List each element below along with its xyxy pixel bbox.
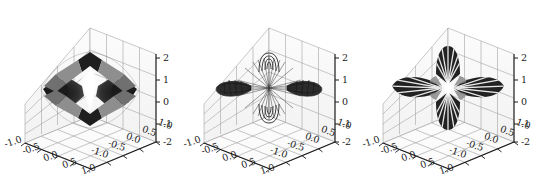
- ztick-label: 0: [342, 97, 348, 107]
- xtick-label: 1.0: [438, 162, 455, 174]
- axes-3d-2: -1.0 -0.5 0.0 0.5 1.0 1.0 0.5 0.0 -0.5 -…: [179, 0, 359, 174]
- figure-three-3d-plots: -1.0 -0.5 0.0 0.5 1.0 1.0 0.5 0.0 -0.5 -…: [0, 0, 538, 174]
- ztick-label: -1: [521, 119, 530, 129]
- ztick-label: -1: [163, 119, 172, 129]
- ztick-label: 2: [521, 53, 527, 63]
- ztick-label: 2: [163, 53, 169, 63]
- panel-filled-contour-plot: -1.0 -0.5 0.0 0.5 1.0 1.0 0.5 0.0 -0.5 -…: [358, 0, 538, 174]
- panel-surface-plot: -1.0 -0.5 0.0 0.5 1.0 1.0 0.5 0.0 -0.5 -…: [0, 0, 180, 174]
- xtick-label: 1.0: [259, 162, 276, 174]
- ztick-label: -2: [163, 137, 172, 147]
- ztick-label: 1: [521, 75, 527, 85]
- ztick-label: -2: [521, 137, 530, 147]
- ztick-label: 0: [163, 97, 169, 107]
- axes-3d-3: -1.0 -0.5 0.0 0.5 1.0 1.0 0.5 0.0 -0.5 -…: [358, 0, 538, 174]
- panel-wireframe-plot: -1.0 -0.5 0.0 0.5 1.0 1.0 0.5 0.0 -0.5 -…: [179, 0, 359, 174]
- ztick-label: -1: [342, 119, 351, 129]
- ztick-label: 2: [342, 53, 348, 63]
- xtick-label: 1.0: [80, 162, 97, 174]
- axes-3d-1: -1.0 -0.5 0.0 0.5 1.0 1.0 0.5 0.0 -0.5 -…: [0, 0, 180, 174]
- ztick-label: 1: [163, 75, 169, 85]
- ztick-label: 1: [342, 75, 348, 85]
- ztick-label: 0: [521, 97, 527, 107]
- ztick-label: -2: [342, 137, 351, 147]
